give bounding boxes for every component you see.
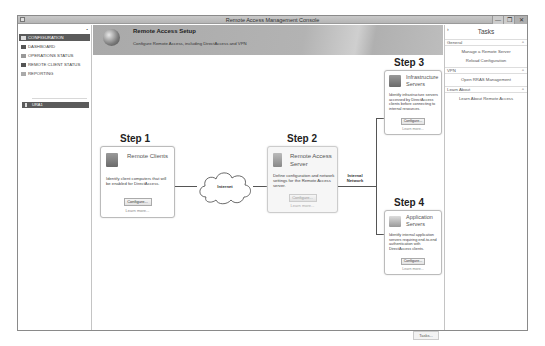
application-servers-icon xyxy=(389,216,401,227)
configuration-icon xyxy=(21,36,26,40)
nav-divider xyxy=(32,98,87,99)
operations-status-icon xyxy=(21,54,26,58)
step-3-configure-button[interactable]: Configure... xyxy=(401,118,425,125)
server-label: URA1 xyxy=(32,102,43,107)
step-3-learn-more-link[interactable]: Learn more... xyxy=(385,127,441,131)
section-title: VPN xyxy=(447,68,456,73)
tasks-section-general[interactable]: General ^ xyxy=(445,39,527,46)
step-1-card: Remote Clients Identify client computers… xyxy=(100,146,175,218)
step-4-card: Application Servers Identify internal ap… xyxy=(384,210,442,275)
nav-item-label: CONFIGURATION xyxy=(28,35,64,40)
step-1-learn-more-link[interactable]: Learn more... xyxy=(101,208,174,213)
connector-line xyxy=(253,186,267,187)
step-1-label: Step 1 xyxy=(120,133,150,144)
server-icon xyxy=(25,103,27,107)
step-1-title: Remote Clients xyxy=(127,152,183,160)
tasks-section-learn-about[interactable]: Learn About ^ xyxy=(445,86,527,93)
task-open-rras-management[interactable]: Open RRAS Management xyxy=(445,77,527,82)
banner-title: Remote Access Setup xyxy=(133,28,196,34)
step-2-learn-more-link[interactable]: Learn more... xyxy=(268,203,337,208)
dashboard-icon xyxy=(21,45,26,49)
nav-item-operations-status[interactable]: OPERATIONS STATUS xyxy=(19,52,90,59)
step-2-label: Step 2 xyxy=(287,133,317,144)
tasks-header: Tasks xyxy=(445,28,527,35)
tasks-section-vpn[interactable]: VPN ^ xyxy=(445,67,527,74)
connector-line xyxy=(338,186,376,187)
pin-icon[interactable]: ▪ xyxy=(87,27,88,32)
step-3-title: Infrastructure Servers xyxy=(406,74,442,88)
banner-subtitle: Configure Remote Access, including Direc… xyxy=(133,41,247,46)
nav-item-label: REPORTING xyxy=(28,71,53,76)
step-2-card: Remote Access Server Define configuratio… xyxy=(267,146,338,213)
connector-line xyxy=(376,118,377,234)
app-window: Remote Access Management Console — ❐ ✕ ▪… xyxy=(17,15,528,331)
restore-button[interactable]: ❐ xyxy=(503,16,514,24)
task-manage-remote-server[interactable]: Manage a Remote Server xyxy=(445,49,527,54)
title-bar: Remote Access Management Console — ❐ ✕ xyxy=(18,16,527,24)
internal-network-label: Internal Network xyxy=(340,173,370,183)
step-3-description: Identify infrastructure servers accessed… xyxy=(389,93,439,111)
step-4-learn-more-link[interactable]: Learn more... xyxy=(385,267,441,271)
setup-banner: Remote Access Setup Configure Remote Acc… xyxy=(93,25,443,55)
reporting-icon xyxy=(21,72,26,76)
internet-label: Internet xyxy=(208,184,242,189)
step-3-label: Step 3 xyxy=(394,57,424,68)
step-4-title: Application Servers xyxy=(406,214,442,228)
step-2-description: Define configuration and network setting… xyxy=(273,173,335,189)
task-learn-about-remote-access[interactable]: Learn About Remote Access xyxy=(445,96,527,101)
setup-diagram: Step 1 Remote Clients Identify client co… xyxy=(93,55,443,330)
step-2-configure-button[interactable]: Configure... xyxy=(289,194,317,202)
section-title: Learn About xyxy=(447,87,470,92)
window-title: Remote Access Management Console xyxy=(18,16,527,24)
step-1-configure-button[interactable]: Configure... xyxy=(124,198,152,206)
step-4-label: Step 4 xyxy=(394,197,424,208)
connector-line xyxy=(376,234,384,235)
server-item[interactable]: URA1 xyxy=(22,102,89,108)
tasks-button[interactable]: Tasks... xyxy=(413,331,439,340)
nav-item-label: DASHBOARD xyxy=(28,44,55,49)
step-3-card: Infrastructure Servers Identify infrastr… xyxy=(384,70,442,135)
connector-line xyxy=(175,186,197,187)
remote-client-status-icon xyxy=(21,63,26,67)
section-title: General xyxy=(447,40,462,45)
step-1-description: Identify client computers that will be e… xyxy=(106,176,168,186)
remote-clients-icon xyxy=(106,153,118,167)
step-4-description: Identify internal application servers re… xyxy=(389,233,439,251)
close-button[interactable]: ✕ xyxy=(514,16,527,24)
tasks-pane: › Tasks General ^ Manage a Remote Server… xyxy=(444,25,527,330)
remote-access-server-icon xyxy=(273,153,282,167)
navigation-pane: ▪ CONFIGURATION DASHBOARD OPERATIONS STA… xyxy=(18,25,92,330)
minimize-button[interactable]: — xyxy=(492,16,503,24)
nav-item-remote-client-status[interactable]: REMOTE CLIENT STATUS xyxy=(19,61,90,68)
step-2-title: Remote Access Server xyxy=(290,152,338,168)
nav-item-dashboard[interactable]: DASHBOARD xyxy=(19,43,90,50)
step-4-configure-button[interactable]: Configure... xyxy=(401,258,425,265)
nav-item-label: REMOTE CLIENT STATUS xyxy=(28,62,80,67)
chevron-up-icon[interactable]: ^ xyxy=(522,87,524,93)
chevron-up-icon[interactable]: ^ xyxy=(522,68,524,74)
nav-item-label: OPERATIONS STATUS xyxy=(28,53,73,58)
task-reload-configuration[interactable]: Reload Configuration xyxy=(445,58,527,63)
chevron-up-icon[interactable]: ^ xyxy=(522,40,524,46)
nav-item-configuration[interactable]: CONFIGURATION xyxy=(19,34,90,41)
infrastructure-servers-icon xyxy=(389,75,401,87)
nav-item-reporting[interactable]: REPORTING xyxy=(19,70,90,77)
connector-line xyxy=(376,118,384,119)
globe-icon xyxy=(103,29,120,46)
